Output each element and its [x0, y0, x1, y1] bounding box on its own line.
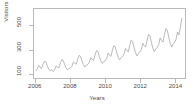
y-tick-label: 300: [16, 38, 22, 56]
x-tick-label: 2008: [57, 83, 83, 89]
x-tick-label: 2012: [127, 83, 153, 89]
x-tick-label: 2006: [22, 83, 48, 89]
y-tick-mark: [29, 74, 33, 75]
chart-figure: 100300500 Visitors 20062008201020122014 …: [0, 0, 194, 109]
x-tick-label: 2010: [92, 83, 118, 89]
y-tick-mark: [29, 25, 33, 26]
plot-area: [33, 8, 186, 79]
x-axis-title: Years: [0, 95, 194, 101]
y-axis-title: Visitors: [3, 0, 15, 66]
x-tick-label: 2014: [162, 83, 188, 89]
y-tick-mark: [29, 50, 33, 51]
y-tick-label: 100: [16, 62, 22, 80]
y-tick-label: 500: [16, 13, 22, 31]
line-series-svg: [34, 9, 185, 78]
visitors-line: [36, 19, 182, 72]
